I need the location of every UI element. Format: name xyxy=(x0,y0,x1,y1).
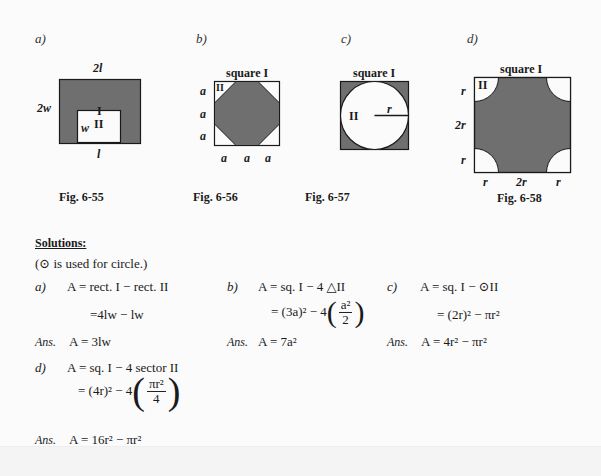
solution-a-line2: =4lw − lw xyxy=(90,307,144,323)
solution-c-line1: A = sq. I − ⊙II xyxy=(420,279,498,295)
solution-c-ans-label: Ans. xyxy=(387,335,408,350)
solution-a-ans-label: Ans. xyxy=(35,335,56,350)
solution-a-label: a) xyxy=(35,279,46,295)
bottom-label-r: r xyxy=(483,175,488,190)
side-label-2r: 2r xyxy=(455,118,466,133)
solution-b-line1: A = sq. I − 4 △II xyxy=(258,279,345,295)
figure-d-caption: Fig. 6-58 xyxy=(497,191,542,206)
circle-symbol-note: (⊙ is used for circle.) xyxy=(35,256,147,272)
region-II-label: II xyxy=(478,78,487,93)
solutions-heading: Solutions: xyxy=(35,236,86,251)
figure-d-title: square I xyxy=(500,62,542,77)
fraction: a² 2 xyxy=(339,298,353,327)
solution-d-line1: A = sq. I − 4 sector II xyxy=(67,360,178,376)
solution-d-label: d) xyxy=(35,360,46,376)
fraction-denominator: 2 xyxy=(342,313,349,327)
right-paren: ) xyxy=(354,297,364,327)
bottom-label-2r: 2r xyxy=(516,175,527,190)
right-paren: ) xyxy=(168,376,181,406)
solution-b-ans-label: Ans. xyxy=(227,335,248,350)
side-label-r: r xyxy=(461,84,466,99)
solution-c-label: c) xyxy=(387,279,397,295)
bottom-label-r: r xyxy=(556,175,561,190)
solution-b-line2-prefix: = (3a)² − 4 xyxy=(271,304,327,320)
left-paren: ( xyxy=(132,376,145,406)
solution-a-line1: A = rect. I − rect. II xyxy=(67,279,168,295)
solution-d-line2: = (4r)² − 4 ( πr² 4 ) xyxy=(78,376,180,406)
solution-a-answer: A = 3lw xyxy=(69,334,111,350)
fraction: πr² 4 xyxy=(147,377,166,406)
page-bottom-band xyxy=(0,446,601,476)
left-paren: ( xyxy=(327,297,337,327)
fraction-numerator: πr² xyxy=(147,377,166,392)
solution-b-line2: = (3a)² − 4 ( a² 2 ) xyxy=(271,297,364,327)
solution-d-line2-prefix: = (4r)² − 4 xyxy=(78,383,132,399)
solution-b-label: b) xyxy=(227,279,238,295)
fraction-denominator: 4 xyxy=(153,392,160,406)
side-label-r: r xyxy=(461,153,466,168)
solution-c-answer: A = 4r² − πr² xyxy=(421,334,487,350)
solution-b-answer: A = 7a² xyxy=(258,334,297,350)
fraction-numerator: a² xyxy=(339,298,353,313)
solution-c-line2: = (2r)² − πr² xyxy=(437,307,500,323)
